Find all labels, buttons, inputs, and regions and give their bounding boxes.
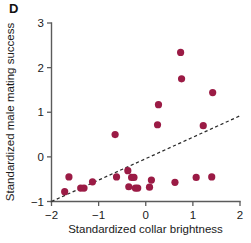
x-tick-label: −1 (92, 209, 105, 221)
y-axis-title: Standardized male mating success (4, 23, 16, 202)
data-point (208, 173, 215, 180)
data-point (124, 167, 131, 174)
x-tick-label: 1 (190, 209, 196, 221)
data-point (178, 75, 185, 82)
data-points (61, 49, 216, 195)
data-point (113, 173, 120, 180)
data-point (148, 176, 155, 183)
data-point (134, 185, 141, 192)
data-point (89, 178, 96, 185)
y-tick-label: 2 (38, 62, 44, 74)
data-point (125, 183, 132, 190)
y-tick-label: 0 (38, 151, 44, 163)
x-axis-ticks: −2−1012 (45, 202, 243, 221)
data-point (200, 122, 207, 129)
data-point (209, 89, 216, 96)
y-tick-label: 3 (38, 17, 44, 29)
data-point (112, 131, 119, 138)
data-point (177, 49, 184, 56)
data-point (130, 174, 137, 181)
data-point (171, 179, 178, 186)
data-point (80, 185, 87, 192)
data-point (146, 184, 153, 191)
data-point (61, 188, 68, 195)
data-point (154, 121, 161, 128)
y-axis-ticks: −10123 (31, 17, 52, 208)
x-tick-label: −2 (45, 209, 58, 221)
y-tick-label: −1 (31, 196, 44, 208)
x-axis-title: Standardized collar brightness (68, 223, 223, 235)
y-tick-label: 1 (38, 106, 44, 118)
x-tick-label: 2 (237, 209, 243, 221)
data-point (65, 173, 72, 180)
scatter-plot: −10123 −2−1012 Standardized collar brigh… (0, 0, 251, 243)
data-point (193, 174, 200, 181)
x-tick-label: 0 (143, 209, 149, 221)
figure-panel-d: D −10123 −2−1012 Standardized collar bri… (0, 0, 251, 243)
data-point (155, 101, 162, 108)
